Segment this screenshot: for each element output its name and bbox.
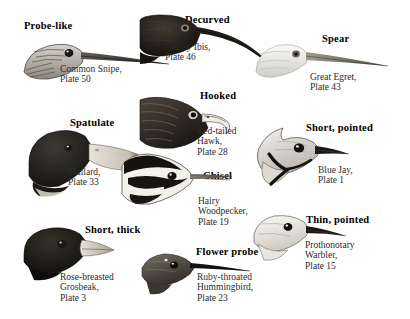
caption-mallard: Mallard, Plate 33	[68, 167, 100, 188]
heading-probe-like: Probe-like	[24, 20, 72, 31]
heading-spatulate: Spatulate	[70, 117, 114, 128]
caption-rose-breasted-grosbeak: Rose-breasted Grosbeak, Plate 3	[60, 272, 114, 303]
caption-prothonotary-warbler: Prothonotary Warbler, Plate 15	[305, 240, 355, 271]
caption-common-snipe: Common Snipe, Plate 50	[60, 64, 122, 85]
caption-glossy-ibis: Glossy Ibis, Plate 46	[165, 42, 210, 63]
bill-types-plate: Probe-like Common Snipe, Plate 50	[0, 0, 410, 319]
caption-blue-jay: Blue Jay, Plate 1	[318, 165, 353, 186]
caption-great-egret: Great Egret, Plate 43	[310, 72, 356, 93]
caption-hairy-woodpecker: Hairy Woodpecker, Plate 19	[198, 196, 248, 227]
caption-ruby-throated-hummingbird: Ruby-throated Hummingbird, Plate 23	[197, 272, 253, 303]
